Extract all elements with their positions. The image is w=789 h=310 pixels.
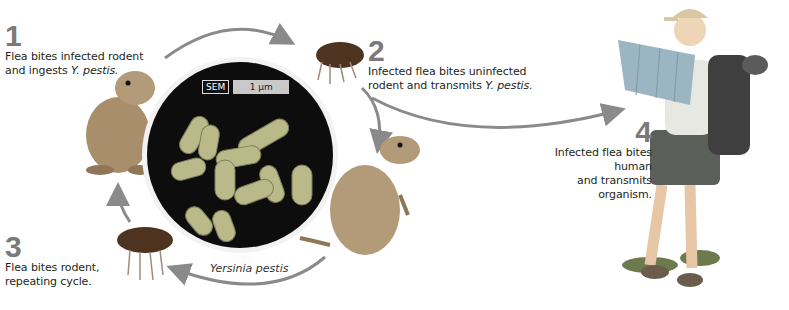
- step-2-text: Infected flea bites uninfected rodent an…: [368, 65, 533, 93]
- micrograph-caption: Yersinia pestis: [210, 262, 288, 275]
- arrow-step2-to-rodent: [362, 88, 380, 148]
- flea-illustration-step2: [316, 42, 364, 84]
- step-2-number: 2: [368, 37, 533, 65]
- step-3: 3 Flea bites rodent, repeating cycle.: [5, 233, 99, 289]
- step-2: 2 Infected flea bites uninfected rodent …: [368, 37, 533, 93]
- step-4: 4 Infected flea bites human and transmit…: [530, 118, 652, 202]
- arrow-step1-to-step2: [165, 29, 290, 58]
- step-1: 1 Flea bites infected rodent and ingests…: [5, 22, 143, 78]
- sem-label: SEM: [202, 80, 229, 94]
- arrow-step3-to-step1: [118, 188, 130, 222]
- flea-illustration-step3: [117, 227, 173, 280]
- step-1-text: Flea bites infected rodent and ingests Y…: [5, 50, 143, 78]
- step-1-number: 1: [5, 22, 143, 50]
- scale-bar: 1 μm: [233, 80, 289, 94]
- step-4-number: 4: [530, 118, 652, 146]
- step-3-number: 3: [5, 233, 99, 261]
- step-3-text: Flea bites rodent, repeating cycle.: [5, 261, 99, 289]
- sem-scale-label: SEM 1 μm: [202, 80, 289, 94]
- step-4-text: Infected flea bites human and transmits …: [530, 146, 652, 202]
